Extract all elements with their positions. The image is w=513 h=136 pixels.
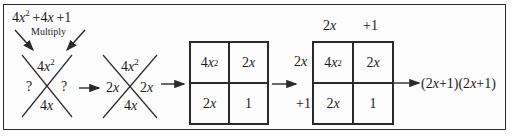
box2-left-label-2: +1 xyxy=(296,97,311,111)
x1-left-unknown: ? xyxy=(26,80,32,94)
box2-cell-top-right: 2x xyxy=(353,42,393,83)
x2-left-factor: 2x xyxy=(106,81,119,95)
multiply-arrow-right xyxy=(67,30,85,50)
x1-bottom-sum: 4x xyxy=(40,99,53,113)
box1-cell-top-right: 2x xyxy=(229,42,268,83)
box2-top-label-1: 2x xyxy=(323,19,336,33)
box1-cell-bottom-left: 2x xyxy=(190,83,229,124)
multiply-label: Multiply xyxy=(31,27,66,37)
box2-left-label-1: 2x xyxy=(294,55,307,69)
x1-right-unknown: ? xyxy=(61,80,67,94)
box2-top-label-2: +1 xyxy=(363,19,378,33)
trinomial-expression: 4x2 +4x +1 xyxy=(12,11,71,25)
box2-cell-bottom-right: 1 xyxy=(353,83,393,124)
x1-top-product: 4x2 xyxy=(37,60,55,74)
x2-top-product: 4x2 xyxy=(121,60,139,74)
x2-bottom-sum: 4x xyxy=(124,99,137,113)
box1-cell-bottom-right: 1 xyxy=(229,83,268,124)
area-box-1: 4x2 2x 2x 1 xyxy=(189,41,269,125)
box1-cell-top-left: 4x2 xyxy=(190,42,229,83)
box2-cell-bottom-left: 2x xyxy=(313,83,353,124)
x2-right-factor: 2x xyxy=(140,81,153,95)
factored-result: (2x+1)(2x+1) xyxy=(421,77,496,91)
box2-cell-top-left: 4x2 xyxy=(313,42,353,83)
area-box-2: 4x2 2x 2x 1 xyxy=(312,41,394,125)
factoring-diagram: 4x2 +4x +1 Multiply 4x2 4x ? ? 4x2 4x 2x… xyxy=(0,0,513,136)
